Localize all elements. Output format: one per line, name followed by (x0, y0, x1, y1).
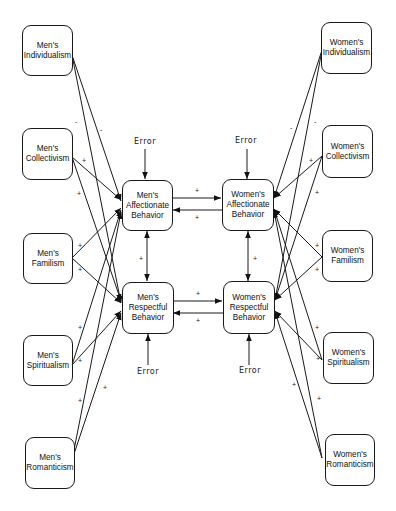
box-label: Women's Affectionate Behavior (226, 190, 269, 220)
error-label-mens-affectionate: Error (134, 137, 156, 146)
box-label: Men's Familism (32, 249, 65, 269)
box-label: Men's Spiritualism (27, 351, 69, 371)
box-label: Men's Romanticism (26, 453, 73, 473)
sign-maff-waff: + (195, 187, 199, 194)
box-mens-respectful-behavior: Men's Respectful Behavior (122, 282, 174, 334)
sign-w-rom-res: + (317, 395, 321, 402)
sign-w-col-res: + (315, 189, 319, 196)
box-mens-spiritualism: Men's Spiritualism (23, 335, 73, 386)
sign-w-spi-aff: + (315, 324, 319, 331)
box-womens-familism: Women's Familism (322, 230, 373, 282)
box-label: Women's Respectful Behavior (230, 293, 269, 323)
box-label: Men's Collectivism (26, 144, 70, 164)
error-label-womens-affectionate: Error (235, 136, 257, 145)
path-w-spi-aff (274, 209, 322, 360)
sign-m-col-aff: + (82, 157, 86, 164)
box-mens-individualism: Men's Individualism (22, 25, 73, 76)
box-womens-individualism: Women's Individualism (321, 22, 372, 74)
box-label: Men's Individualism (24, 41, 71, 61)
sign-m-rom-res: + (103, 384, 107, 391)
box-label: Women's Familism (331, 246, 365, 266)
box-label: Women's Romanticism (326, 450, 373, 470)
sign-mres-wres: + (196, 290, 200, 297)
box-mens-romanticism: Men's Romanticism (25, 437, 75, 489)
box-label: Women's Collectivism (326, 142, 370, 162)
sign-w-fam-aff: + (315, 242, 319, 249)
sign-waff-wres: + (253, 255, 257, 262)
box-womens-affectionate-behavior: Women's Affectionate Behavior (222, 179, 274, 231)
box-label: Women's Spiritualism (327, 348, 369, 368)
sign-waff-maff: + (195, 214, 199, 221)
box-womens-collectivism: Women's Collectivism (322, 125, 373, 178)
sign-w-ind-aff: - (290, 124, 292, 131)
sign-w-ind-res: - (314, 118, 316, 125)
box-womens-respectful-behavior: Women's Respectful Behavior (223, 281, 275, 334)
sign-m-spi-res: + (78, 357, 82, 364)
box-mens-collectivism: Men's Collectivism (22, 128, 73, 180)
sign-m-fam-aff: + (78, 242, 82, 249)
sign-m-col-res: + (77, 190, 81, 197)
sign-m-ind-res: - (100, 126, 102, 133)
sign-w-col-aff: + (309, 157, 313, 164)
box-label: Men's Affectionate Behavior (126, 191, 169, 221)
box-womens-spiritualism: Women's Spiritualism (323, 332, 374, 384)
sign-m-spi-aff: + (78, 324, 82, 331)
error-label-womens-respectful: Error (239, 366, 261, 375)
box-mens-familism: Men's Familism (23, 233, 73, 284)
box-mens-affectionate-behavior: Men's Affectionate Behavior (122, 180, 173, 231)
sign-wres-mres: + (196, 317, 200, 324)
path-w-ind-res (275, 50, 322, 300)
sign-m-rom-aff: + (78, 397, 82, 404)
path-w-rom-res (275, 312, 322, 458)
sign-w-spi-res: + (316, 355, 320, 362)
box-label: Women's Individualism (323, 38, 370, 58)
sign-w-rom-aff: + (292, 381, 296, 388)
sign-m-fam-res: + (78, 266, 82, 273)
sign-m-ind-aff: - (75, 118, 77, 125)
error-label-mens-respectful: Error (137, 367, 159, 376)
box-label: Men's Respectful Behavior (129, 293, 168, 323)
sign-w-fam-res: + (315, 266, 319, 273)
box-womens-romanticism: Women's Romanticism (325, 434, 375, 486)
sign-maff-mres: + (139, 255, 143, 262)
